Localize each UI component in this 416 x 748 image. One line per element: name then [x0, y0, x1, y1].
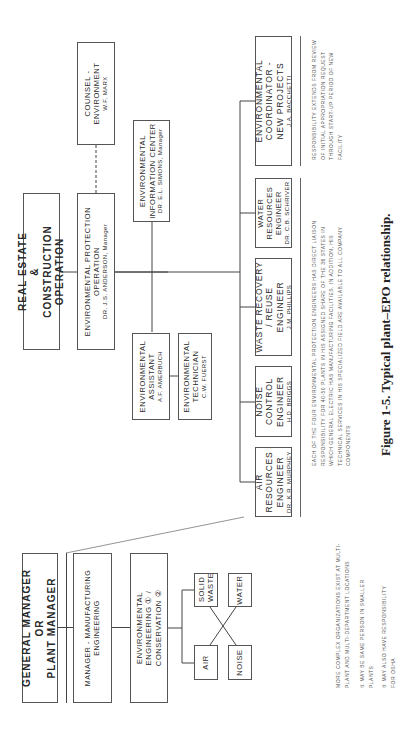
area-air-box: AIR [194, 645, 218, 680]
assistant-name: A.F. AMERBUCH [157, 351, 165, 402]
engineer-title: NOISE CONTROL [254, 367, 275, 436]
technician-line2: TECHNICIAN [191, 351, 200, 403]
engineer-title: WASTE RECOVERY / REUSE [254, 259, 275, 355]
info-center-line1: ENVIRONMENTAL [138, 135, 147, 207]
engineer-title: AIR RESOURCES [254, 448, 275, 516]
real-estate-line2: & [29, 267, 42, 275]
counsel-name: W.F. MARX [102, 76, 110, 110]
area-water-label: WATER [235, 575, 244, 604]
assistant-line2: ASSISTANT [147, 353, 156, 400]
env-eng-line2: ENGINEERING ① / [144, 591, 153, 666]
note-engineers: EACH OF THE FOUR ENVIRONMENTAL PROTECTIO… [310, 216, 353, 466]
technician-box: ENVIRONMENTAL TECHNICIAN C.W. FUERST [178, 333, 212, 420]
counsel-box: COUNSEL - ENVIRONMENT W.F. MARX [77, 42, 115, 145]
engineer-title: WATER RESOURCES [256, 179, 275, 247]
brace-four-engineers [300, 178, 301, 517]
engineer-role: ENGINEER [275, 282, 286, 333]
engineer-box-coordinator: ENVIRONMENTAL COORDINATOR - NEW PROJECTS… [255, 36, 292, 166]
area-water-box: WATER [228, 573, 252, 607]
note-1: ① MAY BE SAME PERSON IN SMALLER PLANTS [358, 578, 375, 688]
info-center-manager: DR. E.L. SIMONS, Manager [157, 129, 165, 214]
engineer-box-noise: NOISE CONTROL ENGINEER H.D. BRIGGS [255, 366, 292, 437]
note-complex-organizations: MORE COMPLEX ORGANIZATIONS EXIST AT MULT… [334, 538, 351, 688]
epo-line2: OPERATION [92, 247, 101, 296]
engineer-box-air: AIR RESOURCES ENGINEER DR. K.R. MURPHEY [255, 447, 292, 517]
engineer-name: J.A. BACCHETTI [286, 75, 294, 127]
brace-coordinator [300, 36, 301, 166]
epo-box: ENVIRONMENTAL PROTECTION OPERATION DR. J… [77, 193, 115, 350]
technician-line1: ENVIRONMENTAL [182, 341, 191, 413]
engineer-role: NEW PROJECTS [275, 62, 286, 139]
general-manager-line3: PLANT MANAGER [46, 578, 59, 679]
general-manager-line2: OR [34, 620, 47, 637]
area-solid-waste-label: SOLID WASTE [197, 578, 216, 602]
manufacturing-engineering-label: MANAGER - MANUFACTURING ENGINEERING [84, 554, 102, 702]
engineer-name: H.D. BRIGGS [286, 381, 294, 422]
area-solid-waste-box: SOLID WASTE [194, 573, 218, 607]
real-estate-line3: CONSTRUCTION OPERATION [42, 194, 67, 349]
real-estate-line1: REAL ESTATE [17, 232, 30, 311]
assistant-line1: ENVIRONMENTAL [138, 341, 147, 413]
assistant-box: ENVIRONMENTAL ASSISTANT A.F. AMERBUCH [132, 333, 170, 420]
area-noise-box: NOISE [228, 645, 252, 680]
counsel-line1: COUNSEL - [83, 71, 92, 117]
engineer-box-water: WATER RESOURCES ENGINEER DR. C.B. SCHRIV… [255, 178, 292, 248]
manufacturing-engineering-box: MANAGER - MANUFACTURING ENGINEERING [73, 553, 112, 703]
area-air-label: AIR [201, 655, 210, 669]
info-center-line2: INFORMATION CENTER [148, 123, 157, 219]
epo-manager: DR. J.S. ANDERSON, Manager [102, 224, 110, 319]
org-chart-page: GENERAL MANAGER OR PLANT MANAGER MANAGER… [0, 0, 416, 748]
engineer-box-waste: WASTE RECOVERY / REUSE ENGINEER J.M. PHI… [255, 258, 292, 356]
real-estate-box: REAL ESTATE & CONSTRUCTION OPERATION [23, 193, 60, 350]
technician-name: C.W. FUERST [201, 355, 209, 398]
engineer-name: J.M. PHILLIPS [286, 285, 294, 330]
figure-caption: Figure 1-5. Typical plant–EPO relationsh… [378, 214, 394, 456]
engineer-name: DR. K.R. MURPHEY [286, 451, 294, 513]
note-2: ② MAY ALSO HAVE RESPONSIBILITY FOR OSHA [380, 578, 397, 688]
counsel-line2: ENVIRONMENT [92, 62, 101, 124]
engineer-title: ENVIRONMENTAL COORDINATOR - [254, 37, 275, 165]
engineer-role: ENGINEER [274, 191, 283, 235]
engineer-role: ENGINEER [275, 457, 286, 508]
epo-line1: ENVIRONMENTAL PROTECTION [83, 207, 92, 336]
note-coordinator: RESPONSIBILITY EXTENDS FROM REVIEW OF IN… [310, 38, 344, 160]
info-center-box: ENVIRONMENTAL INFORMATION CENTER DR. E.L… [133, 120, 170, 222]
area-noise-label: NOISE [235, 649, 244, 675]
env-eng-line1: ENVIRONMENTAL [135, 592, 144, 664]
engineer-role: ENGINEER [275, 376, 286, 427]
engineer-name: DR. C.B. SCHRIVER [284, 181, 292, 244]
general-manager-line1: GENERAL MANAGER [21, 569, 34, 687]
general-manager-box: GENERAL MANAGER OR PLANT MANAGER [22, 553, 58, 703]
environmental-engineering-box: ENVIRONMENTAL ENGINEERING ① / CONSERVATI… [130, 553, 168, 703]
env-eng-line3: CONSERVATION ② [154, 590, 163, 666]
